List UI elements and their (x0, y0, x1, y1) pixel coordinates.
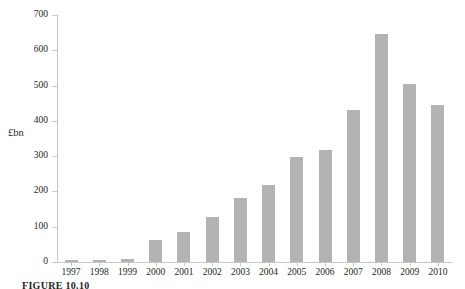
x-axis-tick (128, 262, 129, 266)
y-axis-tick (52, 121, 57, 122)
y-axis-tick-label: 600 (0, 45, 48, 55)
y-axis-tick-label-text: 300 (4, 151, 48, 161)
bar-chart: £bn 0100200300400500600700 1997199819992… (0, 0, 465, 289)
bar-2003 (234, 198, 247, 262)
y-axis-tick (52, 156, 57, 157)
bar-2006 (319, 150, 332, 262)
bar-2008 (375, 34, 388, 262)
y-axis-tick-label-text: 400 (4, 116, 48, 126)
y-axis-tick (52, 50, 57, 51)
bar-2004 (262, 185, 275, 262)
bar-2005 (290, 157, 303, 262)
y-axis-tick-label-text: 100 (4, 222, 48, 232)
y-axis-tick-label-text: 500 (4, 81, 48, 91)
x-axis-tick (212, 262, 213, 266)
y-axis-tick-label: 300 (0, 151, 48, 161)
x-axis-tick (269, 262, 270, 266)
x-axis-tick (71, 262, 72, 266)
y-axis-tick-label-text: 0 (4, 257, 48, 267)
y-axis-tick-label-text: 200 (4, 186, 48, 196)
y-axis-line (57, 15, 58, 262)
bar-2007 (347, 110, 360, 262)
x-axis-tick (184, 262, 185, 266)
bar-2001 (177, 232, 190, 262)
y-axis-tick-label-text: 600 (4, 45, 48, 55)
y-axis-tick-label: 700 (0, 10, 48, 20)
x-axis-line (57, 262, 452, 263)
y-axis-tick-label: 400 (0, 116, 48, 126)
y-axis-tick-label-text: 700 (4, 10, 48, 20)
x-axis-tick (381, 262, 382, 266)
y-axis-tick-label: 200 (0, 186, 48, 196)
x-axis-tick (297, 262, 298, 266)
bar-2009 (403, 84, 416, 262)
y-axis-tick (52, 86, 57, 87)
x-axis-tick (240, 262, 241, 266)
y-axis-tick-label: 500 (0, 81, 48, 91)
x-axis-tick (325, 262, 326, 266)
figure-container: £bn 0100200300400500600700 1997199819992… (0, 0, 465, 289)
y-axis-tick-label: 100 (0, 222, 48, 232)
y-axis-tick-label: 0 (0, 257, 48, 267)
y-axis-tick (52, 262, 57, 263)
y-axis-tick (52, 15, 57, 16)
bar-2010 (431, 105, 444, 262)
x-axis-tick (410, 262, 411, 266)
y-axis-title: £bn (8, 127, 24, 138)
x-axis-tick-label: 2010 (421, 267, 455, 278)
x-axis-tick (438, 262, 439, 266)
bar-2002 (206, 217, 219, 262)
x-axis-tick (353, 262, 354, 266)
bar-2000 (149, 240, 162, 262)
y-axis-tick (52, 191, 57, 192)
x-axis-tick (156, 262, 157, 266)
x-axis-tick (99, 262, 100, 266)
y-axis-tick (52, 227, 57, 228)
figure-caption: FIGURE 10.10 (22, 280, 90, 289)
